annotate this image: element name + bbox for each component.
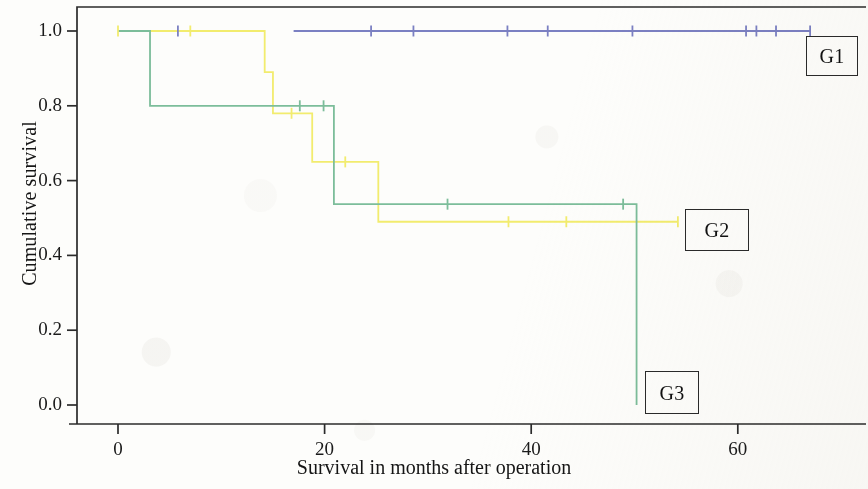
series-label-g3: G3 [645, 371, 699, 414]
series-line-g3 [118, 31, 637, 405]
series-label-g2: G2 [685, 209, 749, 251]
survival-curve-figure: 0.00.20.40.60.81.0 0204060 Cumulative su… [0, 0, 868, 489]
series-line-g2 [118, 31, 678, 222]
series-label-g1: G1 [806, 36, 858, 76]
y-tick-label: 0.0 [14, 393, 62, 415]
y-tick-label: 1.0 [14, 19, 62, 41]
x-axis-title: Survival in months after operation [0, 456, 868, 479]
x-axis-ticks [118, 424, 738, 434]
y-axis-title: Cumulative survival [18, 89, 41, 319]
censor-marks [118, 26, 810, 228]
y-axis-ticks [67, 31, 77, 405]
y-tick-label: 0.2 [14, 318, 62, 340]
